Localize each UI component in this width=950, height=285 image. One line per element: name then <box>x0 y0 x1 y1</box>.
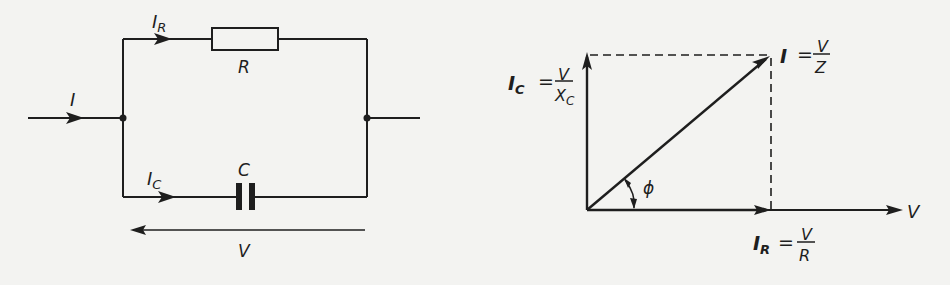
resistor-icon <box>212 28 278 50</box>
resistor-label: R <box>238 57 250 77</box>
capacitor-plate-right-icon <box>249 183 255 210</box>
svg-text:=: = <box>538 70 554 92</box>
i-equation-label: I = V Z <box>780 37 830 77</box>
svg-text:=: = <box>778 231 794 253</box>
svg-text:IR: IR <box>753 232 770 257</box>
ic-equation-label: IC = V XC <box>508 65 575 108</box>
diagram-canvas: I IR R IC C V ϕ V IC = V <box>0 0 950 285</box>
parallel-rc-circuit <box>28 28 420 235</box>
capacitor-label: C <box>238 160 250 180</box>
svg-text:I: I <box>780 45 787 67</box>
svg-text:R: R <box>799 246 810 265</box>
i-resultant-phasor-vector <box>587 59 766 210</box>
svg-text:V: V <box>801 225 813 244</box>
phase-angle-label: ϕ <box>643 178 654 198</box>
capacitor-branch-current-label: IC <box>147 168 162 192</box>
resistor-branch-current-label: IR <box>152 11 166 35</box>
svg-text:=: = <box>797 43 813 65</box>
svg-text:V: V <box>817 37 829 56</box>
phase-angle-arrow-bottom-icon <box>630 198 637 209</box>
svg-text:Z: Z <box>814 58 827 77</box>
capacitor-plate-left-icon <box>236 183 242 210</box>
input-current-label: I <box>70 89 75 110</box>
svg-text:IC: IC <box>508 72 525 97</box>
voltage-label: V <box>238 241 251 261</box>
voltage-axis-label: V <box>907 201 921 222</box>
svg-text:XC: XC <box>554 86 575 108</box>
ir-equation-label: IR = V R <box>753 225 815 265</box>
phasor-diagram <box>582 52 903 215</box>
